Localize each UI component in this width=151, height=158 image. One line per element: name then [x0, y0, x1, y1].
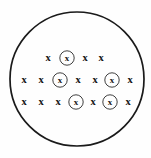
circled-x-icon-r2-c6: x: [110, 75, 115, 85]
field-diagram-figure: xxxxxxxxxxxxxxxxxx: [0, 0, 151, 158]
x-icon-r3-c1: x: [21, 96, 27, 107]
marker-row-2: xxxxxxx: [21, 73, 133, 87]
x-icon-r2-c7: x: [127, 74, 133, 85]
circled-x-icon-r2-c3: x: [58, 75, 63, 85]
marker-row-3: xxxxxxx: [21, 95, 131, 109]
marker-row-1: xxxx: [45, 51, 104, 65]
x-icon-r1-c4: x: [98, 52, 104, 63]
circled-x-icon-r3-c6: x: [108, 97, 113, 107]
field-diagram-canvas: xxxxxxxxxxxxxxxxxx: [0, 0, 151, 158]
x-icon-r1-c3: x: [82, 52, 88, 63]
circled-x-icon-r1-c2: x: [65, 53, 70, 63]
x-icon-r2-c2: x: [38, 74, 44, 85]
x-icon-r2-c4: x: [75, 74, 81, 85]
x-icon-r2-c5: x: [92, 74, 98, 85]
circled-x-icon-r3-c4: x: [74, 97, 79, 107]
x-icon-r2-c1: x: [21, 74, 27, 85]
x-icon-r1-c1: x: [45, 52, 51, 63]
x-icon-r3-c3: x: [55, 96, 61, 107]
x-icon-r3-c2: x: [38, 96, 44, 107]
x-icon-r3-c7: x: [125, 96, 131, 107]
x-icon-r3-c5: x: [90, 96, 96, 107]
